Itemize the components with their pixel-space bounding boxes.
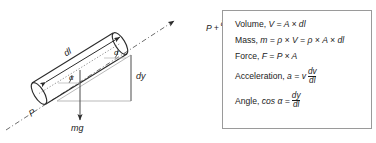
formula-row-angle: Angle, cos α = dy dl bbox=[235, 92, 365, 109]
formula-expr-acceleration: a = v bbox=[287, 72, 306, 81]
formula-expr-force: F = P × A bbox=[262, 52, 298, 61]
label-dy: dy bbox=[136, 71, 146, 81]
angle-numerator: dy bbox=[291, 92, 302, 100]
formula-row-acceleration: Acceleration, a = v dv dl bbox=[235, 68, 365, 85]
acceleration-denominator: dl bbox=[308, 76, 316, 85]
dl-dimension-arrow bbox=[46, 37, 120, 82]
label-mg: mg bbox=[71, 123, 84, 133]
formula-expr-mass: m = ρ × V = ρ × A × dl bbox=[260, 36, 344, 45]
angle-fraction: dy dl bbox=[291, 92, 302, 109]
formula-label-angle: Angle, bbox=[235, 97, 259, 106]
formula-row-mass: Mass, m = ρ × V = ρ × A × dl bbox=[235, 36, 365, 45]
pressure-downstream-prefix: P + bbox=[206, 23, 219, 33]
label-alpha-lower: α bbox=[69, 73, 74, 82]
label-alpha-upper: α bbox=[114, 48, 119, 57]
figure-root: dl P P + ∂P ∂l dl dy mg α α Volume, V = … bbox=[0, 0, 376, 143]
acceleration-fraction: dv dl bbox=[307, 68, 318, 85]
acceleration-numerator: dv bbox=[307, 68, 318, 76]
formula-list: Volume, V = A × dl Mass, m = ρ × V = ρ ×… bbox=[235, 20, 365, 110]
formula-row-force: Force, F = P × A bbox=[235, 52, 365, 61]
formula-expr-angle: cos α = bbox=[262, 97, 290, 106]
formula-label-mass: Mass, bbox=[235, 36, 258, 45]
formula-label-acceleration: Acceleration, bbox=[235, 72, 285, 81]
angle-denominator: dl bbox=[292, 100, 300, 109]
derived-quantities-box: Volume, V = A × dl Mass, m = ρ × V = ρ ×… bbox=[222, 10, 372, 129]
formula-expr-volume: V = A × dl bbox=[268, 20, 305, 29]
formula-label-force: Force, bbox=[235, 52, 259, 61]
formula-label-volume: Volume, bbox=[235, 20, 266, 29]
formula-row-volume: Volume, V = A × dl bbox=[235, 20, 365, 29]
